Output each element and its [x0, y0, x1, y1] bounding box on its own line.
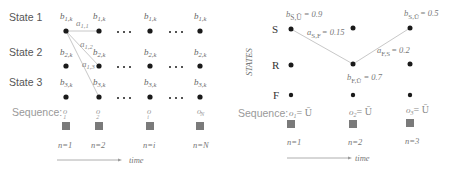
- emission-label: b1,k: [144, 11, 156, 22]
- state-node: [197, 28, 202, 33]
- left-hmm-svg: State 1 State 2 State 3 a1,1 a1,2 a1,3 b…: [0, 0, 230, 173]
- emission-label: b2,k: [93, 47, 105, 58]
- time-arrowhead-icon: [118, 159, 122, 162]
- observation-labels: o1 o2 oi oN: [63, 106, 205, 120]
- step-labels: n=1 n=2 n=3: [287, 136, 419, 147]
- step-label: n=1: [287, 137, 301, 147]
- annotation-b-F: bF,Ū= 0.7: [347, 72, 383, 85]
- annotation-a-S-F: aS,F= 0.15: [307, 27, 345, 40]
- observation-label: o1= Ū: [289, 107, 313, 119]
- state-node: [63, 94, 68, 99]
- state-label-2: State 2: [9, 46, 42, 58]
- observation-square: [196, 122, 204, 130]
- observation-square: [62, 122, 70, 130]
- step-label: n=2: [348, 137, 363, 147]
- observation-square: [146, 122, 154, 130]
- right-hmm-svg: STATES S R F bS,Ū= 0.9 aS,F= 0.15 bF,Ū= …: [230, 0, 450, 173]
- state-node: [351, 93, 355, 97]
- state-node: [147, 28, 152, 33]
- observation-square: [287, 120, 295, 128]
- state-node: [197, 63, 202, 68]
- emission-label: b2,k: [144, 47, 156, 58]
- state-node: [408, 26, 413, 31]
- annotation-a-F-S: aF,S= 0.2: [377, 45, 410, 58]
- emission-label: b1,k: [93, 11, 105, 22]
- emission-label: b2,k: [194, 47, 206, 58]
- observation-label: oN: [197, 106, 205, 117]
- transition-label-a11: a1,1: [76, 18, 89, 29]
- observation-squares: [62, 122, 204, 130]
- state-label-R: R: [272, 59, 280, 71]
- state-node: [96, 63, 101, 68]
- state-node: [197, 94, 202, 99]
- state-label-S: S: [272, 23, 278, 35]
- time-arrowhead-icon: [348, 157, 352, 160]
- observation-label: o1: [63, 106, 67, 120]
- state-node: [351, 26, 356, 31]
- emission-label: b1,k: [194, 11, 206, 22]
- emission-label: b1,k: [60, 11, 72, 22]
- state-node: [96, 28, 101, 33]
- step-label: n=2: [91, 140, 106, 150]
- state-label-1: State 1: [9, 11, 42, 23]
- annotation-b-S-3: bS,Ū= 0.5: [404, 8, 438, 21]
- emission-label: b2,k: [60, 47, 72, 58]
- sequence-label: Sequence:: [238, 107, 288, 119]
- observation-square: [406, 119, 414, 127]
- state-node: [289, 27, 294, 32]
- state-label-3: State 3: [9, 76, 42, 88]
- state-node: [289, 93, 293, 97]
- observation-labels: o1= Ū o2= Ū o3= Ū: [289, 104, 430, 119]
- state-node: [96, 94, 101, 99]
- observation-square: [349, 120, 357, 128]
- state-node: [351, 62, 356, 67]
- state-node: [63, 28, 68, 33]
- state-node: [408, 62, 413, 67]
- state-label-F: F: [273, 89, 279, 101]
- step-label: n=3: [405, 136, 419, 146]
- observation-label: oi: [147, 106, 151, 120]
- step-label: n=N: [193, 140, 210, 150]
- right-hmm-diagram: STATES S R F bS,Ū= 0.9 aS,F= 0.15 bF,Ū= …: [230, 0, 450, 173]
- state-node: [147, 63, 152, 68]
- time-label: time: [355, 153, 370, 163]
- emission-label: b3,k: [144, 77, 156, 88]
- transition-label-a12: a1,2: [80, 39, 93, 50]
- step-label: n=1: [58, 140, 72, 150]
- observation-label: o2: [96, 106, 100, 120]
- states-axis-label: STATES: [244, 48, 254, 76]
- observation-square: [95, 122, 103, 130]
- state-node: [408, 93, 412, 97]
- state-node: [289, 63, 294, 68]
- left-hmm-diagram: State 1 State 2 State 3 a1,1 a1,2 a1,3 b…: [0, 0, 230, 173]
- observation-squares: [287, 119, 414, 128]
- sequence-label: Sequence:: [12, 106, 62, 118]
- observation-label: o2= Ū: [349, 106, 373, 118]
- time-label: time: [129, 155, 144, 165]
- step-labels: n=1 n=2 n=i n=N: [58, 140, 210, 150]
- annotation-b-S-1: bS,Ū= 0.9: [286, 9, 323, 22]
- emission-label: b3,k: [93, 77, 105, 88]
- emission-label: b3,k: [194, 77, 206, 88]
- state-node: [147, 94, 152, 99]
- step-label: n=i: [143, 140, 156, 150]
- path-annotations: bS,Ū= 0.9 aS,F= 0.15 bF,Ū= 0.7 aF,S= 0.2…: [286, 8, 438, 85]
- observation-label: o3= Ū: [406, 104, 430, 116]
- emission-label: b3,k: [60, 77, 72, 88]
- state-node: [63, 63, 68, 68]
